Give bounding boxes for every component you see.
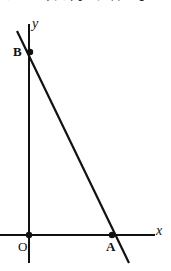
x-axis-label: x [156,224,162,238]
line-through-a-and-b [17,31,129,263]
origin-label: O [18,240,27,253]
point-a-marker [109,232,115,238]
point-b-marker [27,49,33,55]
origin-marker [26,232,32,238]
point-a-label: A [106,240,115,253]
y-axis-label: y [32,17,38,31]
coordinate-plot [0,0,171,271]
point-b-label: B [13,45,22,58]
geometry-figure: のこと,次の問いに答えなさい y x B A O [0,0,171,271]
